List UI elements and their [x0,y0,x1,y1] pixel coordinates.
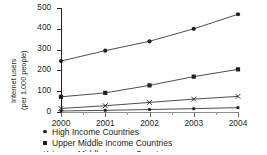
y-tick-label: 100 [37,86,51,95]
data-point-square [59,95,63,99]
data-point-square-small [148,108,151,111]
circle-marker-icon [40,126,52,137]
data-point-square-small [237,106,240,109]
data-point-circle [192,27,196,31]
data-point-square-small [104,109,107,112]
data-point-square [147,83,151,87]
y-axis-title-line-1: Internet users [9,59,18,104]
data-point-square [236,67,240,71]
legend-item: Upper Middle Income Countries [40,137,260,148]
data-point-circle [147,39,151,43]
y-tick-label: 0 [46,107,51,116]
legend-item-label: Lower Middle Income Countries [52,149,172,155]
plot-area: 0100200300400500 20002001200220032004 [61,8,239,113]
y-axis-title: Internet users (per 1,000 people) [0,0,24,118]
legend-item: High Income Countries [40,126,260,137]
legend-item-label: Upper Middle Income Countries [52,138,172,148]
data-point-circle [236,12,240,16]
series-line [61,69,238,96]
y-axis-title-line-2: (per 1,000 people) [19,51,28,111]
x-marker-icon [40,148,52,154]
series-line [61,14,238,61]
chart-legend: High Income CountriesUpper Middle Income… [40,126,260,154]
y-tick-label: 500 [37,3,51,12]
y-tick-label: 400 [37,23,51,32]
legend-item: Lower Middle Income Countries [40,148,260,154]
y-tick-label: 200 [37,65,51,74]
data-point-square-small [60,110,63,113]
data-point-circle [59,59,63,63]
data-point-square [103,91,107,95]
data-point-square [192,75,196,79]
data-point-circle [103,49,107,53]
data-point-square-small [192,107,195,110]
legend-item-label: High Income Countries [52,127,139,137]
square-marker-icon [40,137,52,148]
chart-figure: Internet users (per 1,000 people) 010020… [0,0,267,154]
y-tick-label: 300 [37,44,51,53]
series-canvas [61,8,239,113]
